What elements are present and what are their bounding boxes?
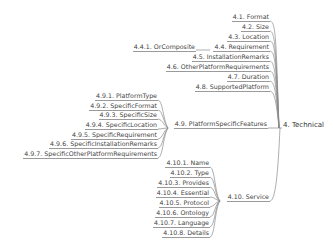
node-4-9-2-specificformat: 4.9.2. SpecificFormat [89,102,158,111]
node-4-9-platformspecificfeatures: 4.9. PlatformSpecificFeatures [174,120,268,129]
node-4-9-4-specificlocation: 4.9.4. SpecificLocation [85,121,158,130]
node-4-10-service: 4.10. Service [227,193,270,202]
node-4-9-5-specificrequirement: 4.9.5. SpecificRequirement [71,131,158,140]
node-4-10-2-type: 4.10.2. Type [170,169,211,178]
node-4-5-installationremarks: 4.5. InstallationRemarks [192,53,270,62]
node-4-9-7-specificotherplatformrequirements: 4.9.7. SpecificOtherPlatformRequirements [23,150,158,159]
node-4-6-otherplatformrequirements: 4.6. OtherPlatformRequirements [166,63,270,72]
node-4-8-supportedplatform: 4.8. SupportedPlatform [195,83,270,92]
node-4-9-1-platformtype: 4.9.1. PlatformType [95,92,158,101]
node-4-10-8-details: 4.10.8. Details [162,229,210,238]
node-4-10-4-essential: 4.10.4. Essential [156,189,210,198]
node-4-7-duration: 4.7. Duration [227,73,270,82]
node-4-9-3-specificsize: 4.9.3. SpecificSize [99,111,158,120]
node-4-10-3-provides: 4.10.3. Provides [157,179,210,188]
node-4-10-6-ontology: 4.10.6. Ontology [155,209,210,218]
node-4-10-7-language: 4.10.7. Language [153,219,210,228]
node-4-1-format: 4.1. Format [232,13,270,22]
node-4-4-1-orcomposite: 4.4.1. OrComposite [133,43,196,52]
root-node-technical: 4. Technical [282,121,325,129]
node-4-3-location: 4.3. Location [227,33,270,42]
node-4-9-6-specificinstallationremarks: 4.9.6. SpecificInstallationRemarks [49,140,158,149]
node-4-10-5-protocol: 4.10.5. Protocol [159,199,210,208]
node-4-10-1-name: 4.10.1. Name [165,159,210,168]
mind-map: 4. Technical 4.1. Format 4.2. Size 4.3. … [0,0,333,251]
node-4-2-size: 4.2. Size [241,23,270,32]
node-4-4-requirement: 4.4. Requirement [213,43,270,52]
